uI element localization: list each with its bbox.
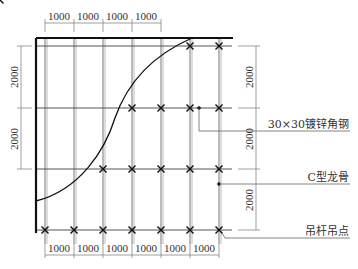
dim-top-1: 1000	[48, 10, 71, 22]
vertical-keels	[45, 38, 221, 244]
dim-right-1: 2000	[243, 66, 255, 89]
dim-right-3: 2000	[243, 189, 255, 212]
dim-bottom-4: 1000	[135, 242, 158, 254]
dim-left-1: 2000	[8, 66, 20, 89]
dimension-lines	[17, 19, 260, 258]
dim-left-2: 2000	[8, 128, 20, 151]
label-hanger-point: 吊杆吊点	[305, 224, 349, 238]
right-dimensions: 2000 2000 2000	[243, 66, 255, 212]
curved-edge	[36, 38, 192, 201]
dim-top-2: 1000	[77, 10, 100, 22]
dim-bottom-3: 1000	[106, 242, 129, 254]
ceiling-grid-drawing: 1000 1000 1000 1000 1000 1000 1000 1000 …	[0, 0, 358, 269]
dim-right-2: 2000	[243, 128, 255, 151]
dim-bottom-5: 1000	[164, 242, 187, 254]
hanger-markers	[0, 0, 223, 234]
dim-bottom-1: 1000	[48, 242, 71, 254]
dim-bottom-2: 1000	[77, 242, 100, 254]
label-c-keel: C型龙骨	[308, 170, 349, 184]
dim-top-4: 1000	[135, 10, 158, 22]
dim-top-3: 1000	[106, 10, 129, 22]
label-angle-steel: 30×30镀锌角钢	[268, 117, 349, 131]
dim-bottom-6: 1000	[193, 242, 216, 254]
